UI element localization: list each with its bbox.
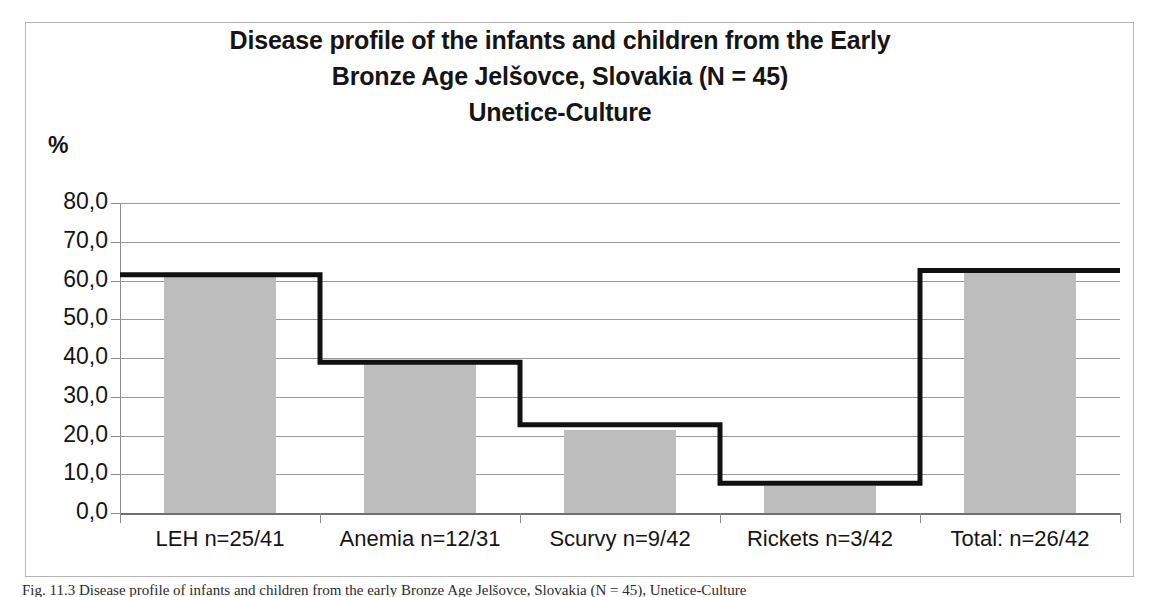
x-axis-tick <box>520 513 521 523</box>
y-axis-tick-label: 20,0 <box>63 421 108 448</box>
x-axis-tick <box>720 513 721 523</box>
y-axis-tick <box>111 281 120 282</box>
y-axis-tick <box>111 474 120 475</box>
y-axis-tick-label: 10,0 <box>63 459 108 486</box>
y-axis-tick-label: 40,0 <box>63 343 108 370</box>
x-axis-line <box>120 513 1120 515</box>
x-axis-category-label: LEH n=25/41 <box>120 526 320 552</box>
figure-caption: Fig. 11.3 Disease profile of infants and… <box>22 582 1142 597</box>
chart-title-line-1: Disease profile of the infants and child… <box>120 22 1000 58</box>
x-axis-category-label: Total: n=26/42 <box>920 526 1120 552</box>
x-axis-tick <box>1120 513 1121 523</box>
y-axis-tick <box>111 436 120 437</box>
chart-title-line-3: Unetice-Culture <box>120 94 1000 130</box>
y-axis-tick <box>111 242 120 243</box>
x-axis-tick <box>120 513 121 523</box>
y-axis-unit-label: % <box>48 132 68 159</box>
y-axis-tick <box>111 319 120 320</box>
x-axis-category-labels: LEH n=25/41Anemia n=12/31Scurvy n=9/42Ri… <box>120 526 1120 552</box>
y-axis-tick-label: 60,0 <box>63 266 108 293</box>
y-axis-tick-labels: 80,070,060,050,040,030,020,010,00,0 <box>20 203 108 513</box>
x-axis-tick <box>920 513 921 523</box>
y-axis-tick-label: 0,0 <box>76 498 108 525</box>
y-axis-tick <box>111 397 120 398</box>
x-axis-category-label: Scurvy n=9/42 <box>520 526 720 552</box>
chart-title-line-2: Bronze Age Jelšovce, Slovakia (N = 45) <box>120 58 1000 94</box>
step-line-series <box>120 203 1120 514</box>
plot-area <box>120 203 1120 513</box>
y-axis-tick-label: 80,0 <box>63 188 108 215</box>
y-axis-tick <box>111 513 120 514</box>
y-axis-tick <box>111 358 120 359</box>
y-axis-tick-label: 70,0 <box>63 227 108 254</box>
y-axis-tick-label: 50,0 <box>63 304 108 331</box>
chart-title: Disease profile of the infants and child… <box>120 22 1000 130</box>
chart-figure-page: Disease profile of the infants and child… <box>0 0 1158 597</box>
x-axis-category-label: Rickets n=3/42 <box>720 526 920 552</box>
y-axis-tick-label: 30,0 <box>63 382 108 409</box>
x-axis-tick <box>320 513 321 523</box>
step-line-path <box>120 270 1120 483</box>
x-axis-category-label: Anemia n=12/31 <box>320 526 520 552</box>
y-axis-tick <box>111 203 120 204</box>
